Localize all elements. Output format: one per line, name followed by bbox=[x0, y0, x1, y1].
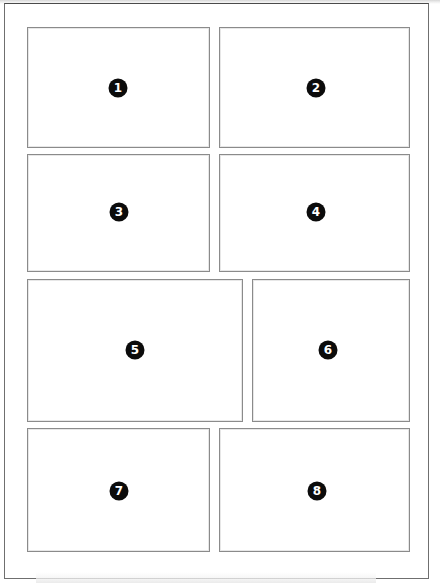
figure-panel-4[interactable]: 4 bbox=[219, 154, 410, 272]
figure-panel-5[interactable]: 5 bbox=[27, 279, 243, 422]
panel-number-badge: 4 bbox=[307, 203, 326, 222]
figure-panel-6[interactable]: 6 bbox=[252, 279, 410, 422]
figure-page: 12345678 bbox=[0, 0, 440, 585]
figure-panel-1[interactable]: 1 bbox=[27, 27, 210, 148]
figure-panel-8[interactable]: 8 bbox=[219, 428, 410, 552]
panel-number-badge: 1 bbox=[109, 79, 128, 98]
figure-panel-2[interactable]: 2 bbox=[219, 27, 410, 148]
panel-number-badge: 3 bbox=[110, 203, 129, 222]
panel-number-badge: 2 bbox=[307, 79, 326, 98]
figure-panel-3[interactable]: 3 bbox=[27, 154, 210, 272]
panel-number-badge: 6 bbox=[319, 341, 338, 360]
figure-panel-7[interactable]: 7 bbox=[27, 428, 210, 552]
panel-number-badge: 7 bbox=[110, 482, 129, 501]
panel-number-badge: 5 bbox=[126, 341, 145, 360]
panel-number-badge: 8 bbox=[308, 482, 327, 501]
